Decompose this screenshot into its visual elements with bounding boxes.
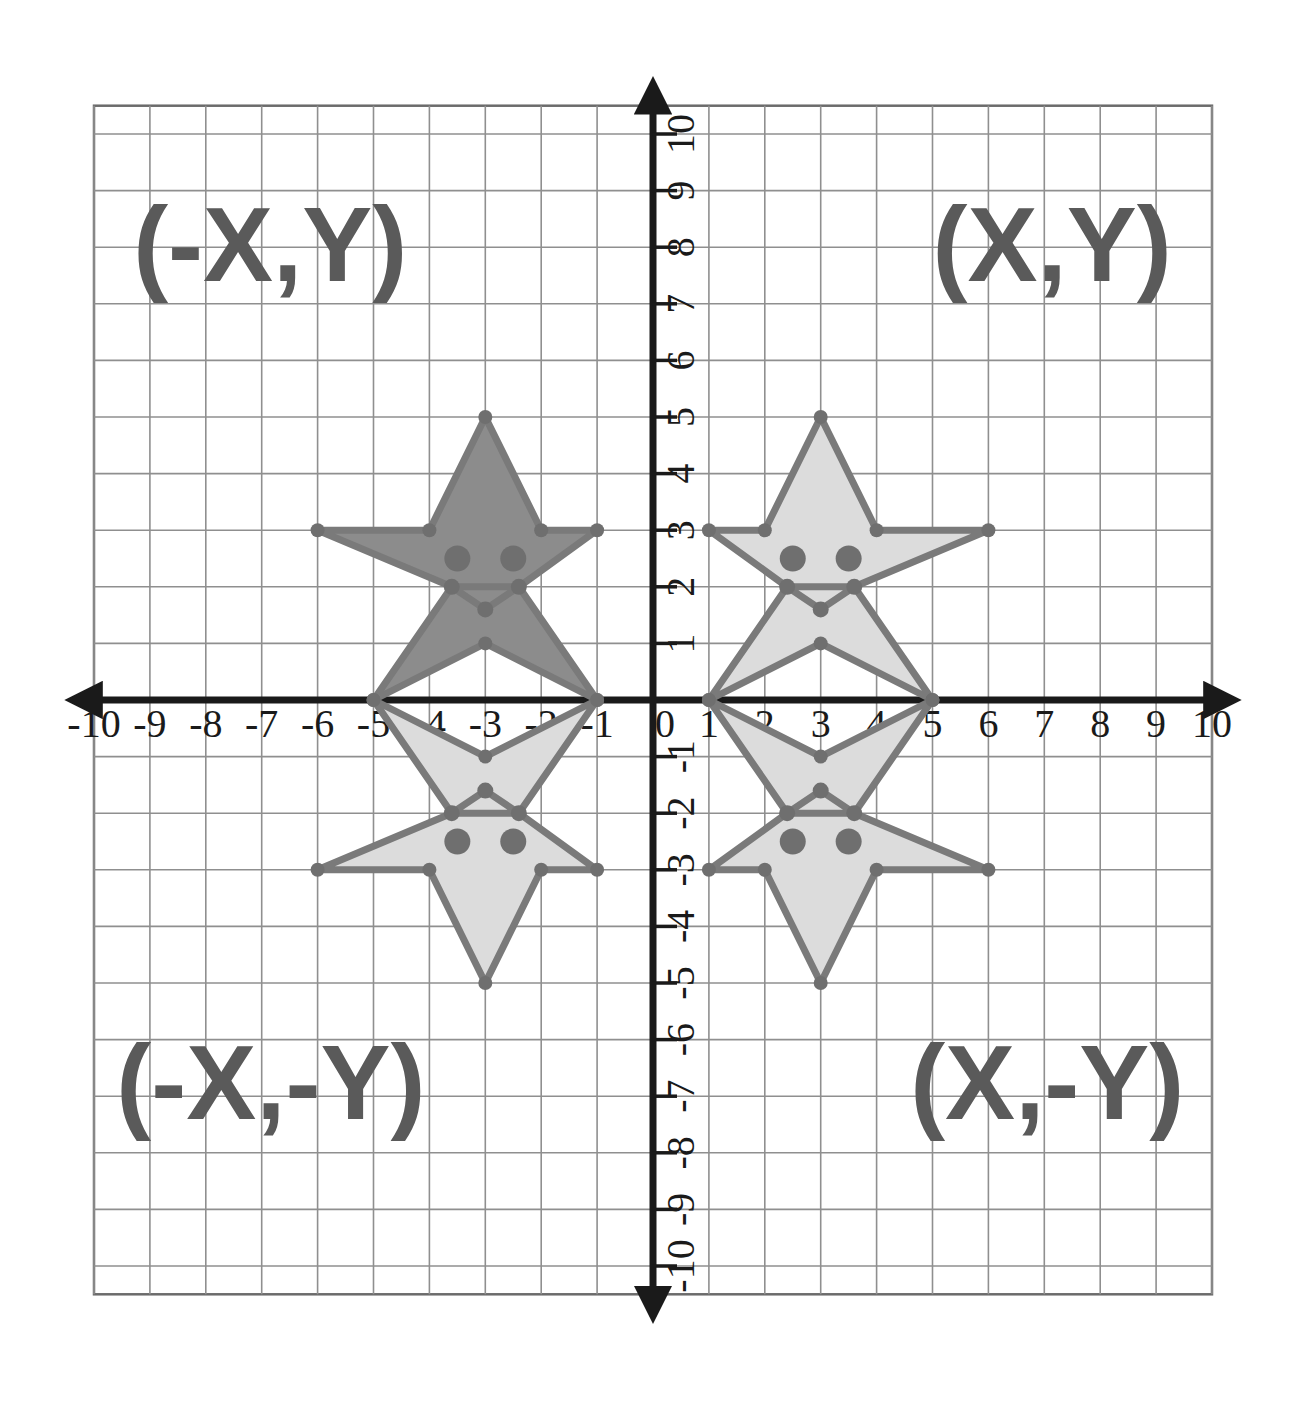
star-vertex-dot bbox=[367, 693, 381, 707]
star-vertex-dot bbox=[311, 863, 325, 877]
x-axis-tick-label-7: 7 bbox=[1034, 701, 1054, 746]
star-vertex-dot bbox=[478, 750, 492, 764]
y-axis-tick-label--8: -8 bbox=[658, 1136, 703, 1169]
x-axis-tick-label--9: -9 bbox=[133, 701, 166, 746]
star-mouth-dot bbox=[444, 805, 460, 821]
y-axis-tick-label-1: 1 bbox=[658, 633, 703, 653]
star-vertex-dot bbox=[870, 523, 884, 537]
star-mouth-dot bbox=[444, 579, 460, 595]
star-vertex-dot bbox=[758, 863, 772, 877]
star-mouth-dot bbox=[813, 783, 829, 799]
star-vertex-dot bbox=[702, 693, 716, 707]
star-vertex-dot bbox=[534, 523, 548, 537]
star-eye-dot bbox=[836, 546, 862, 572]
star-vertex-dot bbox=[478, 636, 492, 650]
star-vertex-dot bbox=[478, 410, 492, 424]
x-axis-tick-label--8: -8 bbox=[189, 701, 222, 746]
y-axis-tick-label-7: 7 bbox=[658, 294, 703, 314]
y-axis-tick-label-2: 2 bbox=[658, 577, 703, 597]
star-mouth-dot bbox=[511, 579, 527, 595]
star-vertex-dot bbox=[311, 523, 325, 537]
y-axis-tick-label-9: 9 bbox=[658, 181, 703, 201]
y-axis-tick-label--5: -5 bbox=[658, 966, 703, 999]
star-eye-dot bbox=[500, 829, 526, 855]
x-axis-tick-label-8: 8 bbox=[1090, 701, 1110, 746]
star-vertex-dot bbox=[814, 750, 828, 764]
star-mouth-dot bbox=[477, 601, 493, 617]
y-axis-tick-label-10: 10 bbox=[658, 114, 703, 154]
x-axis-tick-label-3: 3 bbox=[811, 701, 831, 746]
x-axis-tick-label--6: -6 bbox=[301, 701, 334, 746]
star-mouth-dot bbox=[846, 805, 862, 821]
coordinate-plane-figure: -10-9-8-7-6-5-4-3-2-10123456789101098765… bbox=[0, 0, 1300, 1407]
star-vertex-dot bbox=[758, 523, 772, 537]
star-vertex-dot bbox=[422, 523, 436, 537]
quadrant-1-label: (X,Y) bbox=[933, 186, 1172, 303]
star-vertex-dot bbox=[981, 523, 995, 537]
x-axis-tick-label-9: 9 bbox=[1146, 701, 1166, 746]
y-axis-tick-label--2: -2 bbox=[658, 797, 703, 830]
star-vertex-dot bbox=[870, 863, 884, 877]
star-eye-dot bbox=[444, 546, 470, 572]
star-mouth-dot bbox=[779, 805, 795, 821]
star-vertex-dot bbox=[814, 410, 828, 424]
star-vertex-dot bbox=[590, 863, 604, 877]
quadrant-2-label: (-X,Y) bbox=[133, 186, 407, 303]
y-axis-tick-label--6: -6 bbox=[658, 1023, 703, 1056]
star-vertex-dot bbox=[814, 636, 828, 650]
star-eye-dot bbox=[780, 546, 806, 572]
quadrant-3-label: (-X,-Y) bbox=[116, 1024, 425, 1141]
star-mouth-dot bbox=[477, 783, 493, 799]
y-axis-tick-label-6: 6 bbox=[658, 350, 703, 370]
x-axis-tick-label--7: -7 bbox=[245, 701, 278, 746]
quadrant-4-label: (X,-Y) bbox=[910, 1024, 1184, 1141]
y-axis-tick-label-4: 4 bbox=[658, 464, 703, 484]
star-vertex-dot bbox=[590, 693, 604, 707]
y-axis-tick-label-3: 3 bbox=[658, 520, 703, 540]
x-axis-tick-label-6: 6 bbox=[978, 701, 998, 746]
star-vertex-dot bbox=[422, 863, 436, 877]
star-mouth-dot bbox=[779, 579, 795, 595]
star-eye-dot bbox=[836, 829, 862, 855]
y-axis-tick-label--10: -10 bbox=[658, 1239, 703, 1292]
star-vertex-dot bbox=[926, 693, 940, 707]
star-eye-dot bbox=[780, 829, 806, 855]
star-vertex-dot bbox=[590, 523, 604, 537]
star-vertex-dot bbox=[702, 863, 716, 877]
star-mouth-dot bbox=[511, 805, 527, 821]
star-vertex-dot bbox=[814, 976, 828, 990]
y-axis-tick-label--9: -9 bbox=[658, 1193, 703, 1226]
x-axis-tick-label-10: 10 bbox=[1192, 701, 1232, 746]
y-axis-tick-label-5: 5 bbox=[658, 407, 703, 427]
x-axis-tick-label--10: -10 bbox=[67, 701, 120, 746]
y-axis-tick-label-8: 8 bbox=[658, 237, 703, 257]
star-vertex-dot bbox=[534, 863, 548, 877]
y-axis-tick-label--4: -4 bbox=[658, 910, 703, 943]
star-mouth-dot bbox=[846, 579, 862, 595]
star-vertex-dot bbox=[981, 863, 995, 877]
star-mouth-dot bbox=[813, 601, 829, 617]
y-axis-tick-label--1: -1 bbox=[658, 740, 703, 773]
y-axis-tick-label--7: -7 bbox=[658, 1080, 703, 1113]
star-eye-dot bbox=[500, 546, 526, 572]
star-eye-dot bbox=[444, 829, 470, 855]
y-axis-tick-label--3: -3 bbox=[658, 853, 703, 886]
coordinate-plane-svg: -10-9-8-7-6-5-4-3-2-10123456789101098765… bbox=[0, 0, 1300, 1407]
x-axis-tick-label--3: -3 bbox=[469, 701, 502, 746]
star-vertex-dot bbox=[478, 976, 492, 990]
star-vertex-dot bbox=[702, 523, 716, 537]
x-axis-tick-label-0: 0 bbox=[655, 701, 675, 746]
